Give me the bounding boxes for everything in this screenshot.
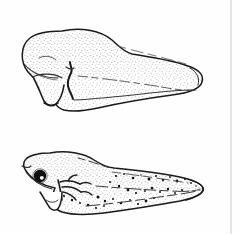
lower-larva bbox=[18, 148, 208, 220]
lower-larva-eye-highlight bbox=[40, 176, 44, 180]
lower-larva-eye bbox=[34, 170, 46, 182]
lower-larva-stipple bbox=[18, 148, 208, 220]
illustration-svg bbox=[0, 0, 240, 234]
lower-larva-ventral-projection bbox=[40, 192, 62, 210]
upper-larva bbox=[18, 26, 208, 116]
figure-canvas: Two amphibian larvae in lateral view bbox=[0, 0, 240, 234]
